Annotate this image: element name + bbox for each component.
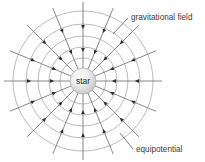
field-arrow-5-1 <box>81 48 85 52</box>
annotation-gravitational-field: gravitational field <box>113 13 193 34</box>
star-label: star <box>76 76 90 86</box>
figure-canvas: star gravitational field equipotential <box>0 0 205 162</box>
field-arrow-9-2 <box>27 79 31 83</box>
annotation-equipotential: equipotential <box>120 133 183 154</box>
field-arrow-13-1 <box>81 110 85 114</box>
equipotential-label: equipotential <box>136 145 183 154</box>
field-line-3 <box>92 25 139 72</box>
field-line-7 <box>27 25 74 72</box>
gravitational-field-label: gravitational field <box>131 13 193 22</box>
field-arrow-1-2 <box>135 79 139 83</box>
field-arrow-13-2 <box>81 133 85 137</box>
field-line-15 <box>92 90 139 137</box>
gravitational-field-diagram: star gravitational field equipotential <box>0 0 205 162</box>
field-line-11 <box>27 90 74 137</box>
field-arrow-5-2 <box>81 25 85 29</box>
field-arrow-9-1 <box>50 79 54 83</box>
field-arrow-1-1 <box>112 79 116 83</box>
star-group: star <box>70 68 96 94</box>
